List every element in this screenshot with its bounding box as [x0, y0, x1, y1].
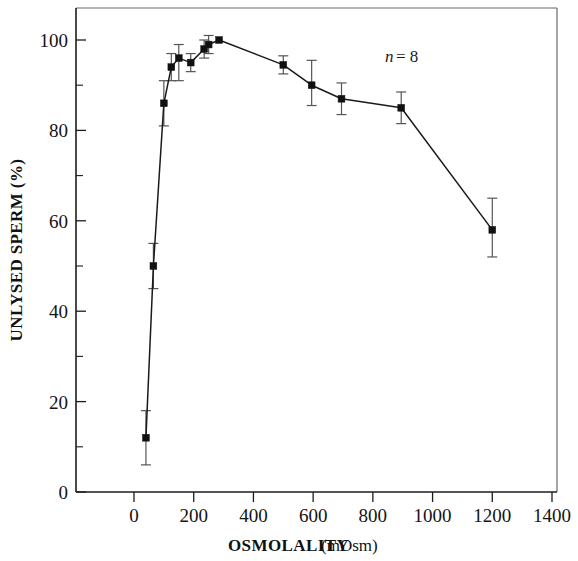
- data-point: [398, 104, 405, 111]
- y-axis-title: UNLYSED SPERM (%): [7, 159, 26, 342]
- data-point: [160, 100, 167, 107]
- x-tick-label-200: 200: [179, 505, 208, 526]
- y-tick-label-80: 80: [49, 120, 68, 141]
- data-line-group: [146, 40, 492, 438]
- x-axis-ticks: [134, 492, 552, 502]
- data-point: [280, 61, 287, 68]
- x-tick-label-1200: 1200: [473, 505, 511, 526]
- y-tick-label-20: 20: [49, 392, 68, 413]
- x-tick-label-400: 400: [239, 505, 268, 526]
- data-point: [308, 82, 315, 89]
- x-tick-label-1400: 1400: [533, 505, 571, 526]
- data-point: [187, 59, 194, 66]
- series-polyline: [146, 40, 492, 438]
- y-tick-label-100: 100: [40, 30, 69, 51]
- data-point: [175, 55, 182, 62]
- x-tick-label-600: 600: [299, 505, 328, 526]
- x-tick-label-0: 0: [129, 505, 139, 526]
- y-axis-tick-labels: 020406080100: [40, 30, 69, 503]
- chart-svg: 020406080100 0200400600800100012001400 U…: [0, 0, 578, 561]
- data-point: [205, 41, 212, 48]
- y-axis-ticks: [76, 40, 86, 492]
- sample-size-value: = 8: [396, 47, 418, 66]
- data-point: [143, 434, 150, 441]
- x-axis-tick-labels: 0200400600800100012001400: [129, 505, 571, 526]
- data-point: [489, 226, 496, 233]
- data-point: [168, 64, 175, 71]
- plot-frame: [76, 8, 557, 492]
- figure-container: 020406080100 0200400600800100012001400 U…: [0, 0, 578, 561]
- data-markers-group: [143, 37, 496, 442]
- x-tick-label-800: 800: [359, 505, 388, 526]
- x-tick-label-1000: 1000: [414, 505, 452, 526]
- y-tick-label-40: 40: [49, 301, 68, 322]
- data-point: [338, 95, 345, 102]
- data-point: [150, 263, 157, 270]
- error-bars-group: [141, 35, 497, 464]
- data-point: [216, 37, 223, 44]
- y-tick-label-0: 0: [59, 482, 69, 503]
- sample-size-symbol: n: [385, 47, 394, 66]
- x-axis-unit: (mOsm): [321, 536, 378, 555]
- y-tick-label-60: 60: [49, 211, 68, 232]
